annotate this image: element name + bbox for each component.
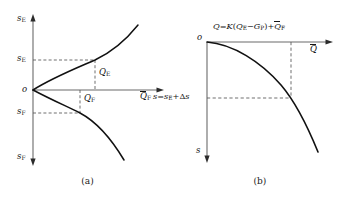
panel-b-curve <box>207 42 318 152</box>
panel-a-curve-lower <box>33 90 124 160</box>
panel-a-y-axis-up-arrow-icon <box>30 14 35 22</box>
panel-a-annotation-q-f: QF <box>84 94 95 103</box>
figure-root: sE sF o sE sF QF QE QF (a) <box>0 0 345 198</box>
panel-b-caption: (b) <box>175 176 345 186</box>
panel-b: o s Q Q=K(QE−GP)+QF s=sE+Δs (b) <box>175 0 345 198</box>
panel-a-y-axis-down-arrow-icon <box>30 159 35 167</box>
panel-a-curve-upper <box>33 25 138 90</box>
panel-a-tick-label-upper: sE <box>17 54 26 63</box>
panel-b-equation: Q=K(QE−GP)+QF <box>213 22 285 32</box>
panel-b-level-label: s=sE+Δs <box>153 92 190 102</box>
panel-a-caption: (a) <box>0 176 175 186</box>
panel-b-x-axis-label: Q <box>310 45 317 54</box>
panel-a: sE sF o sE sF QF QE QF (a) <box>0 0 175 198</box>
panel-a-annotation-q-e: QE <box>99 68 110 77</box>
panel-a-y-axis-top-label: sE <box>17 14 26 23</box>
panel-b-x-axis-arrow-icon <box>326 39 334 44</box>
panel-a-x-axis-label: QF <box>140 92 151 101</box>
panel-b-origin-label: o <box>197 33 202 42</box>
panel-a-y-axis-bottom-label: sF <box>17 152 26 161</box>
panel-a-origin-label: o <box>22 85 27 94</box>
panel-b-y-axis-down-arrow-icon <box>204 156 209 164</box>
panel-a-tick-label-lower: sF <box>17 107 26 116</box>
panel-b-y-axis-label: s <box>196 146 200 155</box>
